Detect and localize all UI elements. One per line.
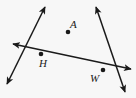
geometry-figure-canvas: A H W — [0, 0, 136, 98]
vertex-label-w: W — [90, 72, 100, 84]
vertex-label-a: A — [69, 18, 77, 30]
vertex-label-h: H — [38, 57, 48, 69]
figure-background — [0, 0, 136, 98]
vertex-point-h — [39, 52, 44, 57]
vertex-point-w — [101, 68, 106, 73]
geometry-figure-container: A H W — [0, 0, 136, 98]
vertex-point-a — [66, 30, 71, 35]
